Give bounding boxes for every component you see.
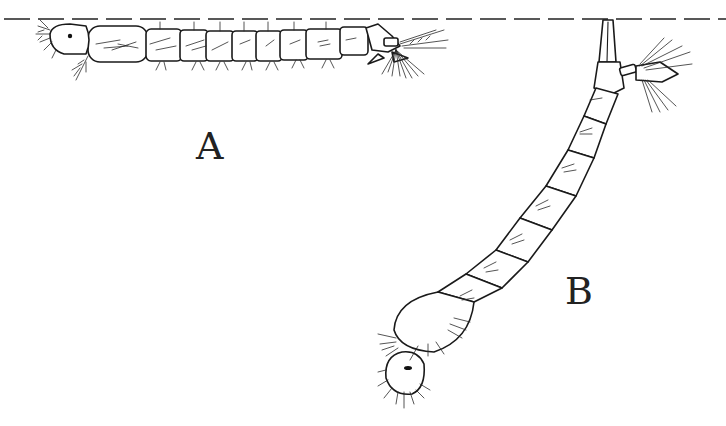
panel-label-b: B: [565, 272, 593, 310]
larva-b: [378, 20, 692, 408]
panel-label-a: A: [196, 127, 223, 165]
larvae-drawing: [0, 0, 726, 426]
larva-a: [36, 20, 448, 80]
larvae-figure: A B: [0, 0, 726, 426]
